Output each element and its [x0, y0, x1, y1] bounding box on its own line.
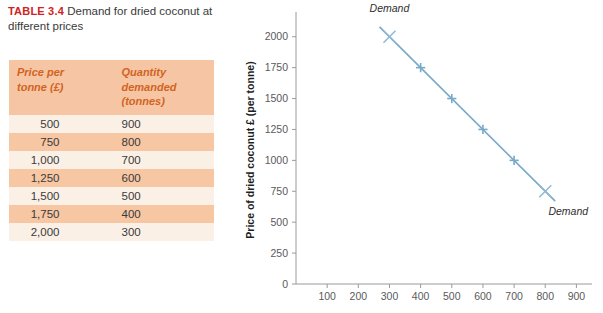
table-body: 500 900 750 800 1,000 700 1,250 600 1,50…	[9, 115, 214, 241]
chart-annotations: DemandDemand	[370, 2, 590, 217]
table-row: 2,000 300	[9, 223, 214, 241]
y-tick-label: 1750	[265, 61, 289, 73]
table-row: 1,250 600	[9, 169, 214, 187]
x-tick-label: 400	[412, 290, 430, 302]
y-axis-title: Price of dried coconut £ (per tonne)	[244, 61, 256, 238]
demand-annotation-label: Demand	[370, 2, 411, 14]
table-caption: TABLE 3.4 Demand for dried coconut at di…	[8, 4, 226, 34]
cell-price: 500	[9, 115, 112, 133]
demand-line	[380, 27, 556, 201]
y-tick-label: 1250	[265, 123, 289, 135]
table-row: 1,000 700	[9, 151, 214, 169]
cell-quantity: 500	[112, 187, 215, 205]
table-header-row: Price per tonne (£) Quantity demanded (t…	[9, 60, 214, 115]
x-axis-ticks: 100200300400500600700800900	[318, 284, 585, 302]
demand-table: Price per tonne (£) Quantity demanded (t…	[9, 60, 214, 241]
data-point-marker	[383, 31, 395, 43]
cell-price: 1,250	[9, 169, 112, 187]
demand-curve-chart: Price of dried coconut £ (per tonne) 025…	[232, 0, 603, 313]
y-tick-label: 750	[270, 185, 288, 197]
demand-table-block: TABLE 3.4 Demand for dried coconut at di…	[0, 0, 228, 313]
chart-svg: Price of dried coconut £ (per tonne) 025…	[232, 0, 603, 313]
column-header-quantity-line1: Quantity	[122, 66, 167, 78]
x-tick-label: 500	[443, 290, 461, 302]
x-tick-label: 100	[318, 290, 336, 302]
x-tick-label: 200	[350, 290, 368, 302]
cell-quantity: 300	[112, 223, 215, 241]
column-header-quantity-line3: (tonnes)	[122, 95, 165, 107]
demand-annotation-label: Demand	[548, 205, 589, 217]
y-tick-label: 2000	[265, 30, 289, 42]
y-tick-label: 1500	[265, 92, 289, 104]
chart-axes	[296, 12, 592, 284]
demand-series	[380, 27, 556, 201]
table-header: Price per tonne (£) Quantity demanded (t…	[9, 60, 214, 115]
table-row: 1,500 500	[9, 187, 214, 205]
column-header-price-line1: Price per	[17, 66, 64, 78]
cell-price: 750	[9, 133, 112, 151]
x-tick-label: 600	[474, 290, 492, 302]
cell-price: 2,000	[9, 223, 112, 241]
cell-quantity: 700	[112, 151, 215, 169]
table-caption-label: TABLE 3.4	[8, 5, 64, 17]
x-tick-label: 300	[381, 290, 399, 302]
x-tick-label: 800	[536, 290, 554, 302]
y-axis-ticks: 025050075010001250150017502000	[265, 30, 296, 289]
data-point-marker	[539, 185, 551, 197]
cell-quantity: 900	[112, 115, 215, 133]
column-header-quantity: Quantity demanded (tonnes)	[112, 60, 215, 115]
column-header-price: Price per tonne (£)	[9, 60, 112, 115]
y-tick-label: 1000	[265, 154, 289, 166]
table-row: 750 800	[9, 133, 214, 151]
y-tick-label: 250	[270, 247, 288, 259]
column-header-quantity-line2: demanded	[122, 81, 177, 93]
y-axis-title-text: Price of dried coconut £ (per tonne)	[244, 61, 256, 238]
cell-price: 1,750	[9, 205, 112, 223]
y-tick-label: 0	[282, 278, 288, 290]
cell-price: 1,000	[9, 151, 112, 169]
table-row: 1,750 400	[9, 205, 214, 223]
cell-price: 1,500	[9, 187, 112, 205]
column-header-price-line2: tonne (£)	[17, 81, 63, 93]
y-tick-label: 500	[270, 216, 288, 228]
table-row: 500 900	[9, 115, 214, 133]
cell-quantity: 400	[112, 205, 215, 223]
cell-quantity: 800	[112, 133, 215, 151]
x-tick-label: 700	[505, 290, 523, 302]
cell-quantity: 600	[112, 169, 215, 187]
x-tick-label: 900	[568, 290, 586, 302]
